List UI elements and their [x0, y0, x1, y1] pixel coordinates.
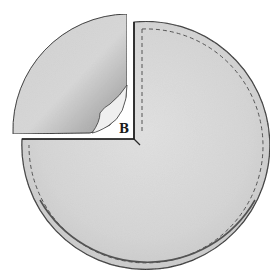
label-b: B: [119, 122, 129, 136]
folded-quarter-flap: [13, 14, 127, 134]
fabric-circle-diagram: [0, 0, 273, 280]
